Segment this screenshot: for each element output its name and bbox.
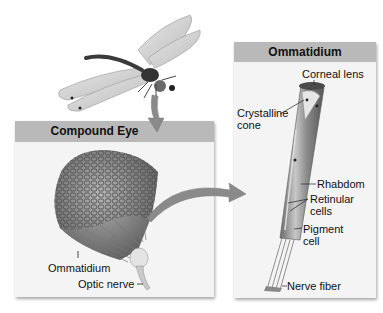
label-ommatidium: Ommatidium	[48, 262, 110, 274]
label-pigment-cell-line2: cell	[303, 235, 343, 247]
label-pigment-cell: Pigment cell	[303, 223, 343, 247]
label-crystalline-cone: Crystalline cone	[237, 107, 288, 131]
label-corneal-lens: Corneal lens	[302, 68, 364, 80]
label-crystalline-cone-line2: cone	[237, 119, 288, 131]
label-pigment-cell-line1: Pigment	[303, 223, 343, 235]
label-retinular-cells-line1: Retinular	[310, 193, 354, 205]
dragonfly-illustration	[59, 15, 201, 111]
label-nerve-fiber: Nerve fiber	[287, 280, 341, 292]
label-retinular-cells-line2: cells	[310, 205, 354, 217]
label-crystalline-cone-line1: Crystalline	[237, 107, 288, 119]
label-retinular-cells: Retinular cells	[310, 193, 354, 217]
arrow-down-icon	[148, 95, 164, 132]
label-optic-nerve: Optic nerve	[78, 278, 134, 290]
arrow-right-icon	[147, 183, 246, 222]
label-rhabdom: Rhabdom	[317, 178, 365, 190]
